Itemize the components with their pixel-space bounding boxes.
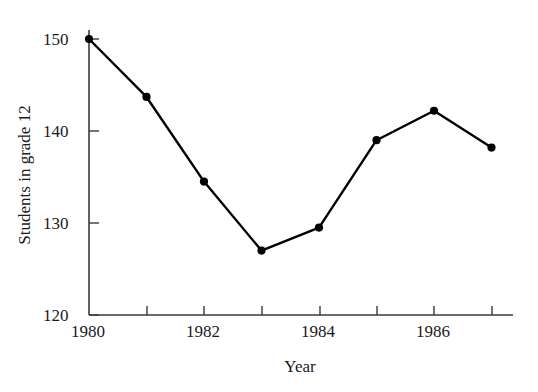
- x-tick-label-1984: 1984: [301, 323, 335, 340]
- data-point: [85, 35, 93, 43]
- y-tick-label-140: 140: [43, 123, 69, 140]
- line-chart: Students in grade 12 Year 150 140 130 12…: [0, 0, 538, 392]
- data-point: [257, 247, 265, 255]
- y-axis-title: Students in grade 12: [15, 105, 34, 244]
- y-tick-label-150: 150: [43, 31, 69, 48]
- y-tick-label-120: 120: [43, 307, 69, 324]
- data-point: [142, 93, 150, 101]
- data-point: [200, 178, 208, 186]
- x-tick-label-1986: 1986: [416, 323, 450, 340]
- x-tick-label-1980: 1980: [71, 323, 105, 340]
- data-point: [372, 136, 380, 144]
- x-axis-title: Year: [284, 357, 316, 376]
- data-point: [430, 107, 438, 115]
- data-point: [315, 224, 323, 232]
- data-point: [487, 143, 495, 151]
- x-tick-label-1982: 1982: [186, 323, 220, 340]
- y-tick-label-130: 130: [43, 215, 69, 232]
